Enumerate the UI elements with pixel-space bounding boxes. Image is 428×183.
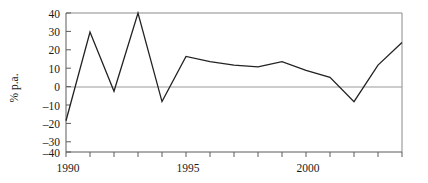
x-tick-label-2000: 2000 [297, 162, 320, 174]
chart-canvas: 40 30 20 10 0 –10 –20 –30 –40 1990 1995 … [0, 0, 428, 183]
y-tick-label-30: 30 [49, 26, 61, 38]
y-tick-label-minus-10: –10 [42, 100, 61, 112]
y-tick-label-minus-20: –20 [42, 118, 61, 130]
y-tick-label-minus-40: –40 [42, 147, 61, 159]
y-tick-label-40: 40 [49, 8, 61, 20]
line-chart-figure: 40 30 20 10 0 –10 –20 –30 –40 1990 1995 … [0, 0, 428, 183]
x-tick-label-1990: 1990 [57, 162, 80, 174]
y-tick-label-20: 20 [49, 44, 61, 56]
y-axis-title: % p.a. [8, 73, 21, 102]
data-series-line [66, 13, 402, 121]
y-tick-marks [66, 13, 71, 152]
x-tick-label-1995: 1995 [177, 162, 200, 174]
y-tick-label-10: 10 [49, 63, 61, 75]
y-tick-label-0: 0 [54, 81, 60, 93]
x-tick-marks [66, 152, 402, 157]
